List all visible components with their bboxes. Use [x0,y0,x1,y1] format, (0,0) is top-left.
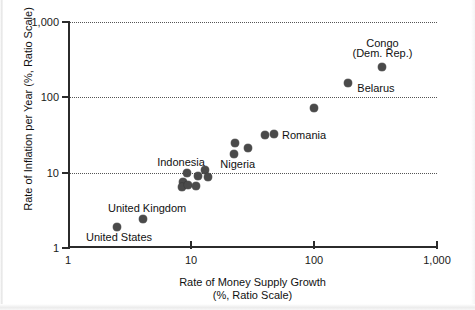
x-axis-title: Rate of Money Supply Growth (%, Ratio Sc… [68,276,437,302]
x-tick-mark-100 [313,241,315,249]
data-point-unlabeled-8 [231,139,239,147]
x-tick-mark-10 [190,241,192,249]
x-tick-mark-1000 [436,241,438,249]
annotation-united-states: United States [86,231,152,243]
y-tick-mark-1000 [62,21,70,23]
scan-edge-right [471,0,475,310]
gridline-y-1000 [68,22,437,23]
data-point-unlabeled-9 [244,144,252,152]
x-axis-title-line2: (%, Ratio Scale) [68,289,437,302]
x-tick-label-1000: 1,000 [423,254,451,266]
annotation-dem-rep: (Dem. Rep.) [352,47,412,59]
x-tick-label-100: 100 [305,254,323,266]
data-point-indonesia [183,169,191,177]
y-tick-mark-100 [62,96,70,98]
y-tick-label-1: 1 [53,242,59,254]
data-point-unlabeled-5 [194,172,202,180]
gridline-y-10 [68,173,437,174]
data-point-unlabeled-3 [184,181,192,189]
data-point-unlabeled-4 [192,182,200,190]
y-tick-mark-1 [62,247,70,249]
y-tick-mark-10 [62,172,70,174]
x-tick-label-1: 1 [65,254,71,266]
data-point-romania [270,130,278,138]
plot-area: 1101001,000 1101001,000 United StatesUni… [68,22,437,248]
gridline-y-100 [68,97,437,98]
data-point-congo-dem-rep [378,63,386,71]
annotation-romania: Romania [282,129,326,141]
data-point-united-kingdom [139,215,147,223]
annotation-indonesia: Indonesia [157,156,205,168]
x-tick-label-10: 10 [185,254,197,266]
data-point-belarus [344,79,352,87]
x-axis-line [68,246,437,248]
data-point-unlabeled-7 [204,173,212,181]
y-tick-label-1000: 1,000 [31,16,59,28]
scan-edge-bottom [0,304,475,310]
annotation-nigeria: Nigeria [220,158,255,170]
annotation-belarus: Belarus [357,82,394,94]
y-tick-label-10: 10 [47,167,59,179]
y-tick-label-100: 100 [41,91,59,103]
y-axis-line [68,22,70,248]
annotation-united-kingdom: United Kingdom [108,202,186,214]
data-point-unlabeled-10 [261,131,269,139]
data-point-unlabeled-11 [310,104,318,112]
inflation-money-growth-scatter-figure: 1101001,000 1101001,000 United StatesUni… [0,0,475,310]
scan-edge-left [0,0,3,310]
x-axis-title-line1: Rate of Money Supply Growth [68,276,437,289]
y-axis-title: Rate of Inflation per Year (%, Ratio Sca… [22,0,34,229]
